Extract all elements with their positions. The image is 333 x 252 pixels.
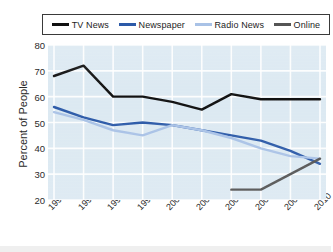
y-tick-60: 60 (23, 91, 45, 102)
legend-label-online: Online (294, 20, 321, 30)
legend-item-online: Online (274, 20, 321, 30)
y-tick-80: 80 (23, 40, 45, 51)
legend-swatch-newspaper (119, 23, 136, 26)
legend-swatch-tv-news (52, 23, 69, 26)
legend-swatch-radio-news (195, 23, 212, 26)
chart-legend: TV News Newspaper Radio News Online (42, 14, 330, 35)
legend-item-newspaper: Newspaper (119, 20, 185, 30)
legend-label-tv-news: TV News (72, 20, 109, 30)
series-line-tv-news (54, 66, 320, 110)
legend-item-radio-news: Radio News (195, 20, 265, 30)
series-canvas (48, 45, 326, 200)
series-line-newspaper (54, 107, 320, 164)
y-tick-40: 40 (23, 143, 45, 154)
y-tick-30: 30 (23, 169, 45, 180)
legend-label-newspaper: Newspaper (139, 20, 185, 30)
y-tick-50: 50 (23, 117, 45, 128)
legend-swatch-online (274, 23, 291, 26)
legend-label-radio-news: Radio News (215, 20, 265, 30)
y-tick-70: 70 (23, 65, 45, 76)
legend-item-tv-news: TV News (52, 20, 109, 30)
y-axis-tick-labels: 80706050403020 (20, 0, 45, 252)
page-edge-strip (0, 246, 331, 252)
plot-area (48, 45, 326, 200)
y-tick-20: 20 (23, 195, 45, 206)
